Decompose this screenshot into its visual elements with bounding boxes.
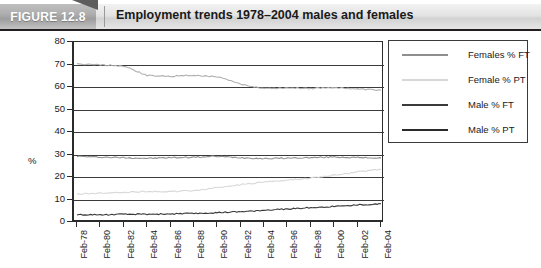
x-tick-label: Feb-84 bbox=[150, 230, 159, 259]
x-tick-mark bbox=[357, 222, 358, 227]
series-line bbox=[77, 203, 381, 215]
x-tick-label: Feb-78 bbox=[80, 230, 89, 259]
x-tick-label: Feb-80 bbox=[103, 230, 112, 259]
legend-swatch-icon bbox=[402, 104, 448, 106]
series-line bbox=[77, 64, 381, 91]
x-tick-label: Feb-94 bbox=[267, 230, 276, 259]
legend-label: Female % PT bbox=[468, 74, 526, 85]
figure-header: FIGURE 12.8 Employment trends 1978–2004 … bbox=[0, 0, 541, 30]
x-tick-mark bbox=[193, 222, 194, 227]
y-tick-mark bbox=[67, 221, 73, 222]
x-tick-mark bbox=[170, 222, 171, 227]
y-tick-label: 60 bbox=[45, 81, 65, 91]
x-tick-mark bbox=[310, 222, 311, 227]
x-tick-mark bbox=[333, 222, 334, 227]
figure-number-tab: FIGURE 12.8 bbox=[0, 4, 96, 29]
x-tick-label: Feb-96 bbox=[290, 230, 299, 259]
y-tick-label: 30 bbox=[45, 149, 65, 159]
y-tick-label: 80 bbox=[45, 36, 65, 46]
series-line bbox=[77, 156, 381, 159]
figure-number-label: FIGURE 12.8 bbox=[10, 10, 85, 24]
header-divider bbox=[104, 6, 105, 27]
figure-title: Employment trends 1978–2004 males and fe… bbox=[116, 8, 413, 22]
x-tick-label: Feb-00 bbox=[337, 230, 346, 259]
x-tick-mark bbox=[123, 222, 124, 227]
x-tick-label: Feb-86 bbox=[174, 230, 183, 259]
plot-frame bbox=[73, 41, 383, 221]
x-tick-mark bbox=[146, 222, 147, 227]
x-tick-label: Feb-98 bbox=[314, 230, 323, 259]
x-tick-label: Feb-88 bbox=[197, 230, 206, 259]
y-tick-label: 0 bbox=[45, 216, 65, 226]
x-tick-label: Feb-82 bbox=[127, 230, 136, 259]
y-tick-label: 10 bbox=[45, 194, 65, 204]
legend-item[interactable]: Females % FT bbox=[389, 42, 529, 67]
x-tick-mark bbox=[216, 222, 217, 227]
x-tick-mark bbox=[76, 222, 77, 227]
legend-label: Male % PT bbox=[468, 124, 514, 135]
chart-area: % 01020304050607080 Feb-78Feb-80Feb-82Fe… bbox=[0, 31, 541, 268]
legend-swatch-icon bbox=[402, 79, 448, 81]
x-tick-mark bbox=[240, 222, 241, 227]
legend-label: Male % FT bbox=[468, 99, 514, 110]
y-axis-label: % bbox=[28, 155, 36, 166]
legend-swatch-icon bbox=[402, 54, 448, 56]
x-tick-label: Feb-02 bbox=[361, 230, 370, 259]
x-tick-label: Feb-04 bbox=[384, 230, 393, 259]
y-tick-label: 70 bbox=[45, 59, 65, 69]
x-tick-mark bbox=[263, 222, 264, 227]
legend-item[interactable]: Male % FT bbox=[389, 92, 529, 117]
chart-legend: Females % FTFemale % PTMale % FTMale % P… bbox=[388, 40, 528, 143]
x-tick-mark bbox=[99, 222, 100, 227]
y-tick-label: 40 bbox=[45, 126, 65, 136]
y-tick-label: 20 bbox=[45, 171, 65, 181]
y-tick-label: 50 bbox=[45, 104, 65, 114]
legend-swatch-icon bbox=[402, 129, 448, 131]
data-series-lines bbox=[74, 42, 384, 222]
x-tick-label: Feb-92 bbox=[244, 230, 253, 259]
x-tick-mark bbox=[380, 222, 381, 227]
legend-item[interactable]: Female % PT bbox=[389, 67, 529, 92]
x-tick-mark bbox=[286, 222, 287, 227]
legend-label: Females % FT bbox=[468, 49, 530, 60]
x-tick-label: Feb-90 bbox=[220, 230, 229, 259]
legend-item[interactable]: Male % PT bbox=[389, 117, 529, 142]
series-line bbox=[77, 169, 381, 194]
